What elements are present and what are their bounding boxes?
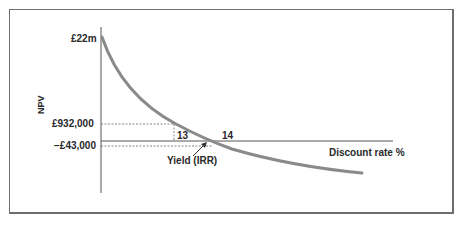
y-tick-22m: £22m — [71, 33, 97, 44]
x-tick-13: 13 — [177, 130, 188, 141]
npv-curve — [102, 37, 362, 173]
x-axis-label: Discount rate % — [329, 147, 405, 158]
x-tick-14: 14 — [222, 130, 233, 141]
y-tick-neg43000: −£43,000 — [54, 140, 96, 151]
npv-chart — [0, 0, 463, 227]
irr-label: Yield (IRR) — [167, 155, 217, 166]
y-axis-label: NPV — [36, 95, 46, 114]
y-tick-932000: £932,000 — [52, 118, 94, 129]
